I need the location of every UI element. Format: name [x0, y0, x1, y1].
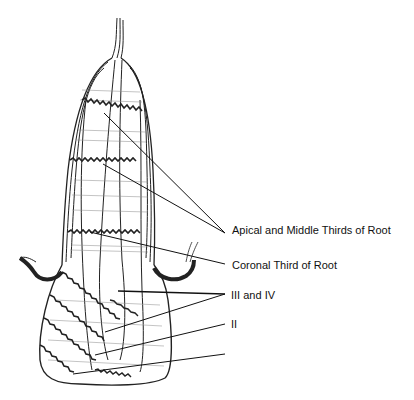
- tooth-drawing: [0, 0, 414, 400]
- tooth-fiber-diagram: Apical and Middle Thirds of Root Coronal…: [0, 0, 414, 400]
- label-ii: II: [231, 318, 237, 330]
- label-apical-middle-thirds: Apical and Middle Thirds of Root: [232, 224, 391, 236]
- label-iii-and-iv: III and IV: [231, 289, 275, 301]
- label-coronal-third: Coronal Third of Root: [232, 259, 337, 271]
